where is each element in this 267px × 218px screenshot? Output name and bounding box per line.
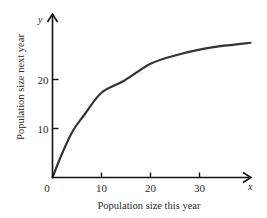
x-tick-label: 30 [194, 182, 206, 194]
x-axis-label: Population size this year [98, 200, 201, 211]
x-ticks: 102030 [96, 173, 206, 194]
x-axis-symbol: x [247, 181, 253, 192]
data-curve [53, 43, 251, 178]
x-tick-label: 20 [145, 182, 157, 194]
population-chart: 102030 1020 0 x y Population size this y… [0, 0, 267, 218]
y-axis-label: Population size next year [15, 34, 26, 140]
y-tick-label: 20 [38, 74, 50, 86]
x-tick-label: 10 [96, 182, 108, 194]
plot-area: 102030 1020 0 x y Population size this y… [15, 14, 253, 211]
y-axis-symbol: y [37, 14, 43, 25]
origin-label: 0 [44, 182, 50, 194]
y-tick-label: 10 [38, 123, 50, 135]
y-ticks: 1020 [38, 74, 59, 135]
